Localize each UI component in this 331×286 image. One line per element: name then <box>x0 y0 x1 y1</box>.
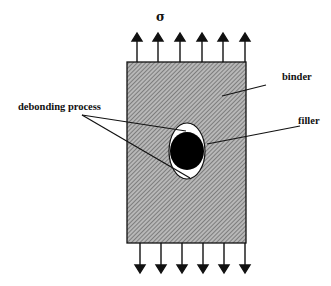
top-tension-arrows <box>132 33 250 62</box>
binder-label: binder <box>282 71 312 82</box>
debonding-diagram: σ binder filler debonding process <box>0 0 331 286</box>
debonding-label: debonding process <box>18 101 101 112</box>
filler-label: filler <box>298 115 320 126</box>
stress-symbol: σ <box>156 10 165 24</box>
filler-particle <box>170 132 204 170</box>
bottom-tension-arrows <box>135 243 250 273</box>
